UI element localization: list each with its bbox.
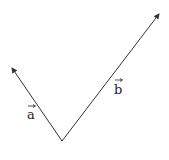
vector-diagram: a b: [0, 0, 169, 160]
vector-a-arrow: [12, 68, 62, 141]
vector-b-label: b: [114, 79, 123, 98]
vector-b-arrow: [62, 14, 159, 141]
svg-text:a: a: [27, 107, 35, 122]
svg-text:b: b: [114, 82, 122, 97]
vector-a-label: a: [27, 105, 36, 123]
